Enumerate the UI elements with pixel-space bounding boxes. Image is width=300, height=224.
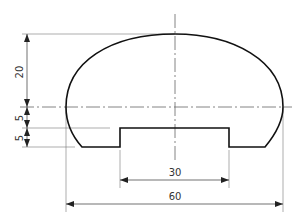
technical-drawing: 20 5 5 30 60	[0, 0, 300, 224]
dim-height-upper: 20	[14, 66, 25, 79]
dim-height-middle: 5	[14, 115, 25, 121]
centerlines	[20, 14, 292, 160]
dim-overall-width: 60	[169, 191, 182, 202]
dim-notch-width: 30	[169, 167, 182, 178]
dim-height-lower: 5	[14, 135, 25, 141]
profile-outline	[66, 34, 283, 147]
extension-lines	[22, 34, 283, 212]
